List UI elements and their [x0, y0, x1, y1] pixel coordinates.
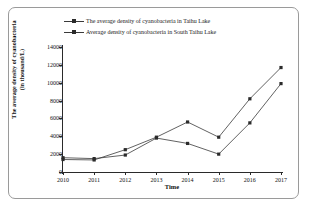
y-axis-ticks: 02000400060008000100001200014000 [37, 47, 62, 172]
x-axis-title: Time [63, 183, 281, 190]
y-axis-title: The average density of cyanobacteria (in… [10, 11, 25, 129]
chart-legend: The average density of cyanobacteria in … [64, 16, 279, 38]
legend-item-taihu-lake: The average density of cyanobacteria in … [64, 16, 279, 27]
legend-item-south-taihu-lake: Average density of cyanobacteria in Sout… [64, 27, 279, 38]
x-tick-mark [63, 172, 64, 175]
data-point [155, 136, 158, 139]
y-axis-title-line1: The average density of cyanobacteria [10, 20, 17, 118]
x-tick-mark [94, 172, 95, 175]
data-point [124, 148, 127, 151]
data-point [248, 97, 251, 100]
data-point [124, 153, 127, 156]
data-point [217, 136, 220, 139]
x-tick-mark [219, 172, 220, 175]
legend-label: Average density of cyanobacteria in Sout… [86, 28, 216, 37]
data-point [186, 142, 189, 145]
legend-marker-icon [64, 17, 84, 26]
data-point [279, 82, 282, 85]
chart-figure: The average density of cyanobacteria in … [0, 0, 309, 209]
plot-area [63, 47, 281, 172]
series-line-1 [63, 84, 281, 159]
series-line-2 [63, 68, 281, 160]
x-tick-mark [281, 172, 282, 175]
data-point [248, 121, 251, 124]
x-tick-mark [156, 172, 157, 175]
data-point [93, 158, 96, 161]
data-point [217, 153, 220, 156]
legend-marker-icon [64, 28, 84, 37]
x-tick-mark [250, 172, 251, 175]
series-lines [63, 47, 281, 172]
data-point [279, 66, 282, 69]
legend-label: The average density of cyanobacteria in … [86, 17, 210, 26]
data-point [61, 158, 64, 161]
y-axis-title-line2: (in thousand/L) [18, 11, 26, 129]
x-tick-mark [125, 172, 126, 175]
x-tick-mark [188, 172, 189, 175]
data-point [186, 120, 189, 123]
